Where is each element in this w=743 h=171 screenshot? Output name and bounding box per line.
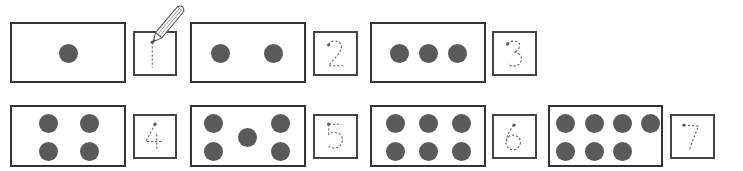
dot-box-3 bbox=[370, 22, 486, 83]
dot bbox=[585, 114, 604, 133]
dot-box-2 bbox=[190, 22, 306, 83]
dot bbox=[419, 142, 438, 161]
dot bbox=[271, 142, 290, 161]
dot bbox=[452, 142, 471, 161]
dot bbox=[386, 114, 405, 133]
pencil-icon bbox=[140, 0, 200, 50]
trace-digit-3 bbox=[494, 33, 535, 74]
trace-box-2: 2 bbox=[313, 31, 358, 76]
trace-box-6: 6 bbox=[492, 114, 537, 159]
dot-box-6 bbox=[370, 105, 486, 167]
dot bbox=[613, 142, 632, 161]
dot bbox=[448, 44, 467, 63]
trace-digit-6 bbox=[494, 116, 535, 157]
dot bbox=[419, 114, 438, 133]
dot bbox=[39, 142, 58, 161]
dot bbox=[271, 114, 290, 133]
dot bbox=[59, 44, 78, 63]
trace-box-4: 4 bbox=[133, 114, 177, 159]
dot bbox=[556, 142, 575, 161]
dot bbox=[386, 142, 405, 161]
dot bbox=[613, 114, 632, 133]
trace-digit-5 bbox=[315, 116, 356, 157]
dot bbox=[238, 128, 257, 147]
dot bbox=[390, 44, 409, 63]
dot-box-1 bbox=[10, 22, 126, 83]
dot-box-4 bbox=[10, 105, 126, 167]
trace-box-5: 5 bbox=[313, 114, 358, 159]
dot bbox=[452, 114, 471, 133]
trace-digit-7 bbox=[672, 116, 713, 157]
trace-digit-4 bbox=[135, 116, 175, 157]
dot bbox=[80, 114, 99, 133]
trace-box-7: 7 bbox=[670, 114, 715, 159]
dot bbox=[419, 44, 438, 63]
dot bbox=[80, 142, 99, 161]
worksheet-title: Count the dots and trace the number bbox=[0, 0, 1, 1]
dot bbox=[264, 44, 283, 63]
dot bbox=[39, 114, 58, 133]
dot bbox=[585, 142, 604, 161]
dot-box-5 bbox=[190, 105, 306, 167]
trace-box-3: 3 bbox=[492, 31, 537, 76]
dot bbox=[641, 114, 660, 133]
dot-box-7 bbox=[548, 105, 663, 167]
dot bbox=[211, 44, 230, 63]
dot bbox=[556, 114, 575, 133]
dot bbox=[204, 142, 223, 161]
dot bbox=[204, 114, 223, 133]
trace-digit-2 bbox=[315, 33, 356, 74]
